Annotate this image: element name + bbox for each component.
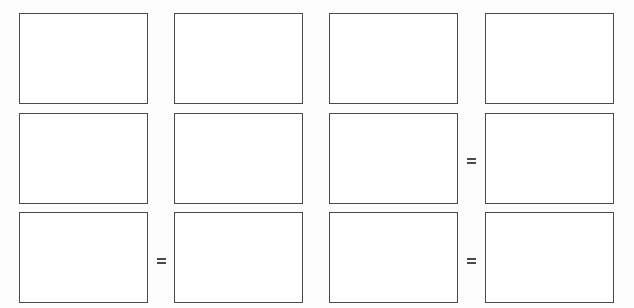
equals-sign-r3-a [157, 258, 166, 264]
box-r1-c1 [19, 13, 148, 104]
box-r3-c4 [485, 212, 614, 303]
box-r3-c3 [329, 212, 458, 303]
box-r2-c2 [174, 113, 303, 204]
equals-sign-r2 [467, 158, 476, 164]
box-r1-c4 [485, 13, 614, 104]
box-r2-c3 [329, 113, 458, 204]
box-r3-c2 [174, 212, 303, 303]
box-r3-c1 [19, 212, 148, 303]
box-r2-c4 [485, 113, 614, 204]
box-r1-c3 [329, 13, 458, 104]
box-r2-c1 [19, 113, 148, 204]
equals-sign-r3-b [467, 258, 476, 264]
box-r1-c2 [174, 13, 303, 104]
